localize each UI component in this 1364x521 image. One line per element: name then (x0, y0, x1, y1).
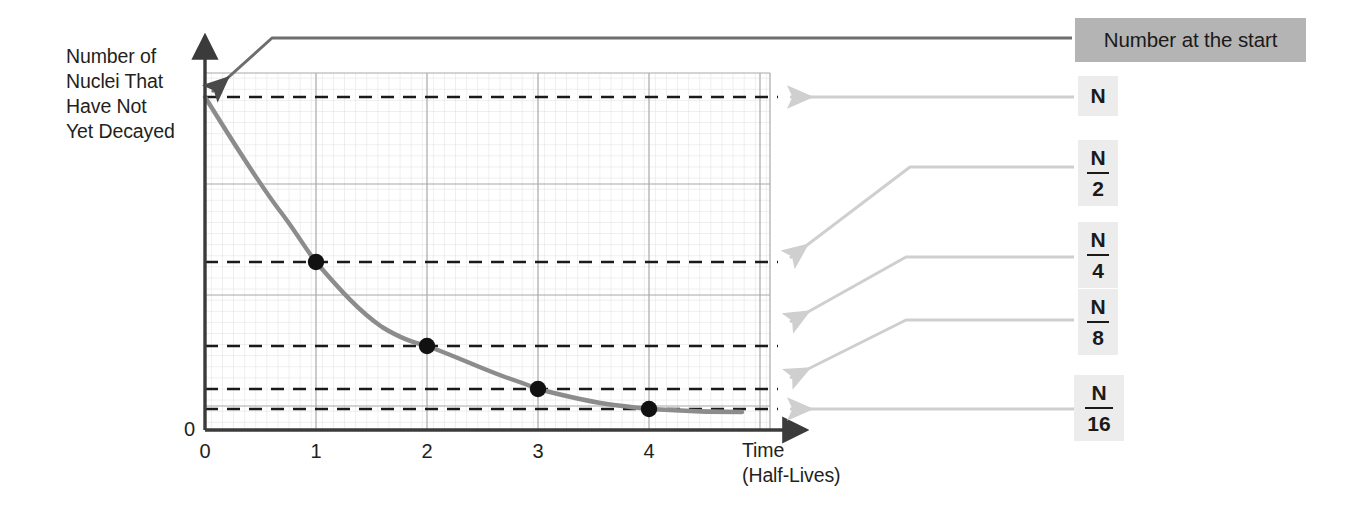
fraction-numerator: N (1090, 147, 1105, 170)
fraction-denominator: 8 (1092, 325, 1104, 348)
x-tick-label-3: 3 (523, 440, 553, 463)
callout-n-over-8: N 8 (1078, 289, 1118, 355)
fraction-bar (1087, 172, 1109, 174)
fraction-numerator: N (1091, 382, 1106, 405)
y-origin-label: 0 (169, 418, 195, 441)
leader-lines-fractions (790, 97, 1074, 409)
data-point-n8 (530, 381, 546, 397)
callout-n-over-2: N 2 (1078, 140, 1118, 206)
leader-n2 (790, 167, 1074, 258)
fraction-bar (1085, 407, 1113, 409)
fraction-denominator: 2 (1092, 176, 1104, 199)
fraction-numerator: N (1090, 296, 1105, 319)
x-tick-label-4: 4 (634, 440, 664, 463)
fraction-bar (1087, 321, 1109, 323)
data-point-n4 (419, 338, 435, 354)
x-tick-label-0: 0 (190, 440, 220, 463)
leader-n8 (790, 320, 1074, 378)
callout-n-over-16: N 16 (1074, 375, 1124, 441)
leader-n4 (790, 257, 1074, 322)
data-point-n16 (641, 401, 657, 417)
callout-number-at-the-start: Number at the start (1075, 18, 1306, 62)
x-tick-label-1: 1 (301, 440, 331, 463)
x-tick-label-2: 2 (412, 440, 442, 463)
callout-n: N (1078, 76, 1118, 116)
plot-grid (205, 73, 770, 430)
y-axis-label: Number of Nuclei That Have Not Yet Decay… (66, 44, 198, 144)
fraction-denominator: 16 (1087, 411, 1110, 434)
decay-chart-figure: Number of Nuclei That Have Not Yet Decay… (0, 0, 1364, 521)
data-point-n2 (308, 254, 324, 270)
callout-n-over-4: N 4 (1078, 222, 1118, 288)
fraction-bar (1087, 254, 1109, 256)
x-axis-label: Time (Half-Lives) (742, 438, 932, 488)
fraction-denominator: 4 (1092, 258, 1104, 281)
fraction-numerator: N (1090, 229, 1105, 252)
